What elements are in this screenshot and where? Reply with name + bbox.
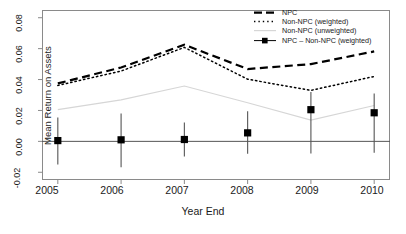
legend-label-nonnpc-unweighted: Non-NPC (unweighted) — [282, 26, 356, 35]
data-marker-2007 — [181, 136, 188, 143]
data-marker-2008 — [244, 129, 251, 136]
legend-item-difference: NPC – Non-NPC (weighted) — [252, 36, 371, 45]
chart-root: Mean Return on Assets -0.02 0.00 0.02 0.… — [0, 0, 406, 234]
legend-label-nonnpc-weighted: Non-NPC (weighted) — [282, 17, 348, 26]
data-marker-2009 — [307, 106, 314, 113]
data-marker-2005 — [54, 137, 61, 144]
chart-legend: NPC Non-NPC (weighted) Non-NPC (unweight… — [252, 8, 371, 45]
data-marker-2010 — [371, 109, 378, 116]
legend-key-npc — [252, 8, 278, 17]
legend-label-difference: NPC – Non-NPC (weighted) — [282, 36, 371, 45]
data-marker-2006 — [117, 136, 124, 143]
legend-key-nonnpc-unweighted — [252, 26, 278, 35]
legend-item-npc: NPC — [252, 8, 371, 17]
legend-key-difference — [252, 36, 278, 45]
series-line-nonnpc-weighted — [58, 47, 374, 90]
legend-item-nonnpc-unweighted: Non-NPC (unweighted) — [252, 26, 371, 35]
legend-key-nonnpc-weighted — [252, 17, 278, 26]
legend-item-nonnpc-weighted: Non-NPC (weighted) — [252, 17, 371, 26]
legend-label-npc: NPC — [282, 8, 297, 17]
series-line-nonnpc-unweighted — [58, 86, 374, 120]
